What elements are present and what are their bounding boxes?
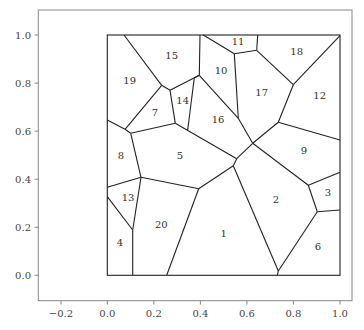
x-ticks [61, 301, 340, 305]
svg-text:0.8: 0.8 [285, 308, 301, 319]
cell-label-17: 17 [255, 87, 268, 98]
x-tick-labels: −0.2 0.0 0.2 0.4 0.6 0.8 1.0 [49, 308, 348, 319]
svg-text:0.0: 0.0 [99, 308, 115, 319]
cell-label-4: 4 [117, 237, 123, 248]
cell-label-2: 2 [273, 194, 279, 205]
cell-label-1: 1 [221, 228, 227, 239]
cell-label-15: 15 [165, 50, 178, 61]
svg-text:−0.2: −0.2 [49, 308, 73, 319]
cell-label-10: 10 [215, 65, 228, 76]
svg-text:0.2: 0.2 [146, 308, 162, 319]
cell-label-8: 8 [118, 150, 124, 161]
voronoi-plot: −0.2 0.0 0.2 0.4 0.6 0.8 1.0 0.0 0.2 0.4… [0, 0, 364, 330]
cell-label-14: 14 [176, 95, 189, 106]
svg-text:0.6: 0.6 [239, 308, 255, 319]
y-ticks [35, 35, 39, 275]
cell-label-16: 16 [212, 114, 225, 125]
svg-text:0.0: 0.0 [15, 270, 31, 281]
cell-label-7: 7 [152, 107, 158, 118]
svg-text:1.0: 1.0 [15, 30, 31, 41]
cell-label-3: 3 [325, 187, 331, 198]
cell-label-13: 13 [122, 192, 135, 203]
svg-text:0.6: 0.6 [15, 126, 31, 137]
cell-label-12: 12 [313, 90, 326, 101]
cell-label-19: 19 [123, 75, 136, 86]
cell-label-6: 6 [315, 241, 321, 252]
y-tick-labels: 0.0 0.2 0.4 0.6 0.8 1.0 [15, 30, 31, 281]
svg-text:0.4: 0.4 [192, 308, 208, 319]
svg-text:0.2: 0.2 [15, 222, 31, 233]
svg-text:1.0: 1.0 [332, 308, 348, 319]
cell-label-20: 20 [155, 219, 168, 230]
cell-label-18: 18 [290, 46, 303, 57]
cell-label-5: 5 [177, 150, 183, 161]
cell-label-9: 9 [301, 145, 307, 156]
cell-label-11: 11 [232, 36, 245, 47]
svg-text:0.8: 0.8 [15, 78, 31, 89]
svg-text:0.4: 0.4 [15, 174, 31, 185]
